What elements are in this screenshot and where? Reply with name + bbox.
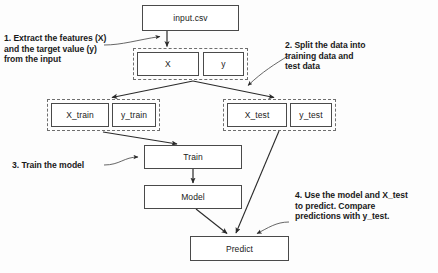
node-y: y [203, 52, 244, 76]
arrow-model-to-predict [196, 209, 227, 234]
leader-step-4 [257, 222, 289, 234]
arrow-split-to-test-data [193, 81, 274, 98]
node-predict: Predict [190, 236, 289, 261]
diagram-canvas: input.csv X y X_train y_train X_test y_t… [0, 0, 438, 273]
arrow-train-data-to-train [103, 132, 177, 144]
arrow-test-data-to-predict [236, 131, 279, 233]
annotation-step-1: 1. Extract the features (X) and the targ… [4, 33, 136, 65]
node-y-train: y_train [112, 103, 156, 127]
annotation-step-2: 2. Split the data into training data and… [285, 40, 435, 72]
node-x-test: X_test [227, 103, 287, 127]
node-train: Train [144, 145, 242, 169]
node-model: Model [144, 185, 242, 209]
node-input-csv: input.csv [142, 5, 239, 31]
node-x: X [137, 52, 199, 76]
node-y-test: y_test [290, 103, 332, 127]
annotation-step-3: 3. Train the model [12, 160, 122, 171]
leader-step-2 [248, 56, 288, 86]
annotation-step-4: 4. Use the model and X_test to predict. … [295, 190, 437, 222]
node-x-train: X_train [51, 103, 109, 127]
arrow-split-to-train-data [112, 81, 193, 98]
